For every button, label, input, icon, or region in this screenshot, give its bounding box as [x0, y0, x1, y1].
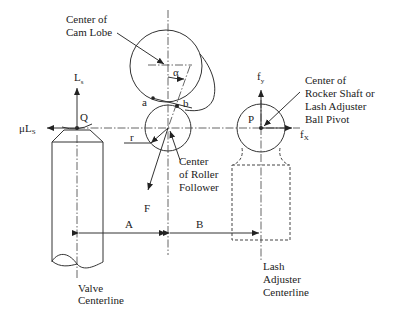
pivot-label-3: Lash Adjuster	[305, 100, 367, 112]
cam-center-label-1: Center of	[66, 13, 108, 25]
p-label: P	[248, 113, 254, 125]
roller-center-label-2: of Roller	[179, 168, 219, 180]
valvetrain-diagram: α a b Center of Cam Lobe r F Center of R…	[0, 0, 393, 321]
r-label: r	[130, 131, 134, 143]
pivot-label-2: Rocker Shaft or	[305, 87, 375, 99]
point-b-label: b	[183, 97, 189, 109]
point-a-label: a	[142, 96, 147, 108]
mu-ls-label: μLS	[19, 122, 36, 136]
cam-center-leader	[117, 33, 164, 64]
lash-centerline-label-2: Adjuster	[263, 273, 301, 285]
q-label: Q	[80, 111, 88, 123]
fy-label: fy	[257, 70, 265, 85]
pivot-label-4: Ball Pivot	[305, 113, 349, 125]
roller-center-label-1: Center	[179, 155, 209, 167]
roller-center-label-3: Follower	[179, 181, 219, 193]
lash-centerline-label-1: Lash	[263, 260, 285, 272]
dim-a-label: A	[125, 218, 133, 230]
point-a	[151, 96, 155, 100]
lash-centerline-label-3: Centerline	[263, 286, 309, 298]
pivot-label-1: Center of	[305, 74, 347, 86]
force-f-label: F	[144, 202, 150, 214]
valve-centerline-label-2: Centerline	[78, 294, 124, 306]
ls-label: Ls	[74, 71, 84, 86]
valve-centerline-label-1: Valve	[78, 282, 103, 294]
alpha-label: α	[173, 66, 179, 78]
fx-label: fX	[300, 128, 309, 142]
pivot-center-leader	[264, 92, 300, 126]
cam-center-label-2: Cam Lobe	[66, 26, 112, 38]
dim-b-label: B	[196, 218, 203, 230]
valve-stem	[52, 124, 103, 268]
